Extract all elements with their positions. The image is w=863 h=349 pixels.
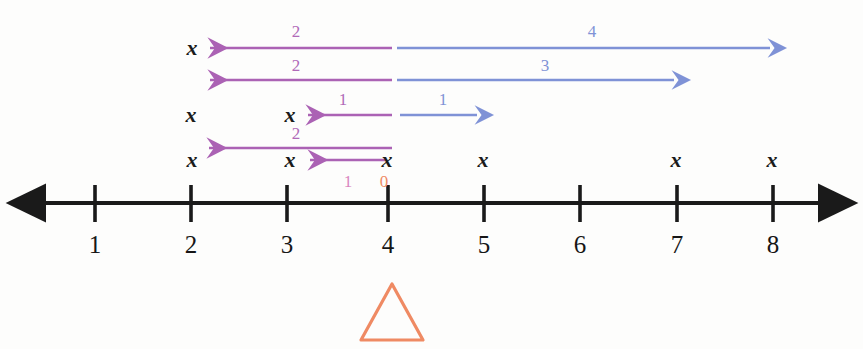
x-marker: x bbox=[285, 149, 296, 171]
arrow-label-row3-purple: 1 bbox=[339, 91, 348, 108]
x-marker: x bbox=[382, 149, 393, 171]
arrow-label-row2-blue: 3 bbox=[541, 57, 550, 74]
x-marker: x bbox=[187, 149, 198, 171]
x-marker: x bbox=[671, 149, 682, 171]
tick-label-3: 3 bbox=[281, 232, 294, 257]
tick-label-4: 4 bbox=[382, 232, 395, 257]
figure-artwork bbox=[0, 0, 863, 349]
x-marker: x bbox=[186, 104, 197, 126]
x-marker: x bbox=[187, 37, 198, 59]
number-line-figure: x x x x x x x x x 2 4 2 3 1 1 2 1 0 1 2 … bbox=[0, 0, 863, 349]
tick-label-7: 7 bbox=[671, 232, 684, 257]
orange-triangle-marker bbox=[361, 284, 423, 340]
zero-label: 0 bbox=[380, 173, 389, 190]
tick-label-8: 8 bbox=[767, 232, 780, 257]
tick-label-5: 5 bbox=[478, 232, 491, 257]
x-marker: x bbox=[478, 149, 489, 171]
arrow-label-row3-blue: 1 bbox=[439, 91, 448, 108]
arrow-label-row1-purple: 2 bbox=[292, 23, 301, 40]
x-marker: x bbox=[767, 149, 778, 171]
arrow-label-row4-short: 1 bbox=[344, 173, 353, 190]
tick-label-6: 6 bbox=[574, 232, 587, 257]
arrow-label-row1-blue: 4 bbox=[588, 23, 597, 40]
tick-label-1: 1 bbox=[89, 232, 102, 257]
tick-label-2: 2 bbox=[185, 232, 198, 257]
arrow-label-row2-purple: 2 bbox=[292, 57, 301, 74]
arrow-label-row4-long: 2 bbox=[292, 125, 301, 142]
